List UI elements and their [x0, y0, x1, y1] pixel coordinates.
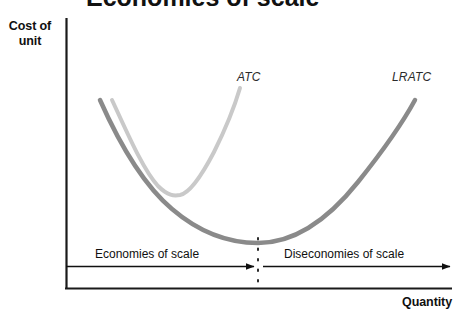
economies-of-scale-figure: Economies of scale Cost of un [0, 0, 458, 316]
y-axis-label: Cost of unit [2, 19, 58, 49]
lratc-curve-label: LRATC [392, 70, 431, 84]
atc-curve-label: ATC [237, 70, 261, 84]
plot-canvas [0, 0, 458, 316]
x-axis-label: Quantity [330, 295, 452, 310]
economies-of-scale-label: Economies of scale [95, 247, 199, 261]
atc-curve [112, 88, 240, 195]
diseconomies-of-scale-label: Diseconomies of scale [284, 247, 404, 261]
